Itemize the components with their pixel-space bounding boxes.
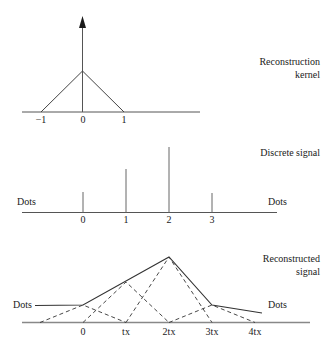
reconstructed-dots-left: Dots: [13, 299, 32, 310]
reconstructed-tick-3tx: 3tx: [206, 326, 219, 337]
dashed-kernel-0: [40, 305, 126, 323]
kernel-tick-1: 1: [122, 114, 127, 125]
reconstructed-caption: Reconstructed signal: [200, 252, 320, 278]
reconstructed-tick-2tx: 2tx: [163, 326, 176, 337]
discrete-tick-2: 2: [167, 214, 172, 225]
reconstructed-tick-tx: tx: [122, 326, 130, 337]
reconstructed-tick-0: 0: [81, 326, 86, 337]
dashed-kernel-1: [83, 282, 169, 323]
reconstruction-figure: −1 0 1 Reconstruction kernel 0 1 2 3 Dot…: [0, 0, 332, 357]
kernel-caption: Reconstruction kernel: [200, 55, 320, 81]
discrete-caption: Discrete signal: [180, 146, 320, 159]
panel-kernel: [22, 16, 200, 112]
discrete-tick-1: 1: [124, 214, 129, 225]
discrete-dots-left: Dots: [17, 196, 36, 207]
dashed-kernel-3: [169, 305, 255, 323]
kernel-tick-minus1: −1: [36, 114, 47, 125]
discrete-tick-3: 3: [210, 214, 215, 225]
reconstructed-tick-4tx: 4tx: [249, 326, 262, 337]
discrete-tick-0: 0: [81, 214, 86, 225]
kernel-tick-0: 0: [81, 114, 86, 125]
reconstructed-dots-right: Dots: [268, 299, 287, 310]
discrete-dots-right: Dots: [268, 196, 287, 207]
kernel-y-axis-arrow-icon: [79, 16, 86, 28]
